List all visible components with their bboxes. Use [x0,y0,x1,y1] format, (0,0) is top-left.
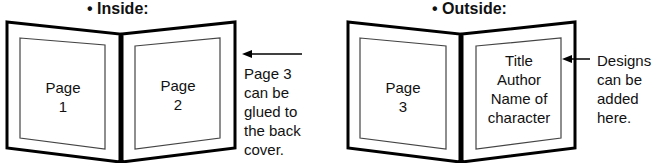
note-line: the back [244,121,301,140]
inside-arrow [242,50,302,58]
page-number: 1 [35,97,91,116]
outside-page-left-label: Page 3 [375,78,431,116]
inside-note: Page 3 can be glued to the back cover. [244,64,301,159]
page-word: Page [375,78,431,97]
note-line: here. [597,108,651,127]
cover-title: Title [474,51,564,70]
outside-note: Designs can be added here. [597,51,651,127]
inside-page-right-label: Page 2 [150,76,206,114]
note-line: Designs [597,51,651,70]
inside-page-left-label: Page 1 [35,78,91,116]
page-number: 2 [150,95,206,114]
note-line: glued to [244,102,301,121]
inside-heading: • Inside: [87,0,149,18]
page-number: 3 [375,97,431,116]
cover-name-of: Name of [474,89,564,108]
note-line: can be [597,70,651,89]
page-word: Page [150,76,206,95]
outside-heading: • Outside: [432,0,507,18]
page-word: Page [35,78,91,97]
note-line: can be [244,83,301,102]
note-line: Page 3 [244,64,301,83]
outside-cover-text: Title Author Name of character [474,51,564,127]
cover-character: character [474,108,564,127]
cover-author: Author [474,70,564,89]
note-line: added [597,89,651,108]
note-line: cover. [244,140,301,159]
